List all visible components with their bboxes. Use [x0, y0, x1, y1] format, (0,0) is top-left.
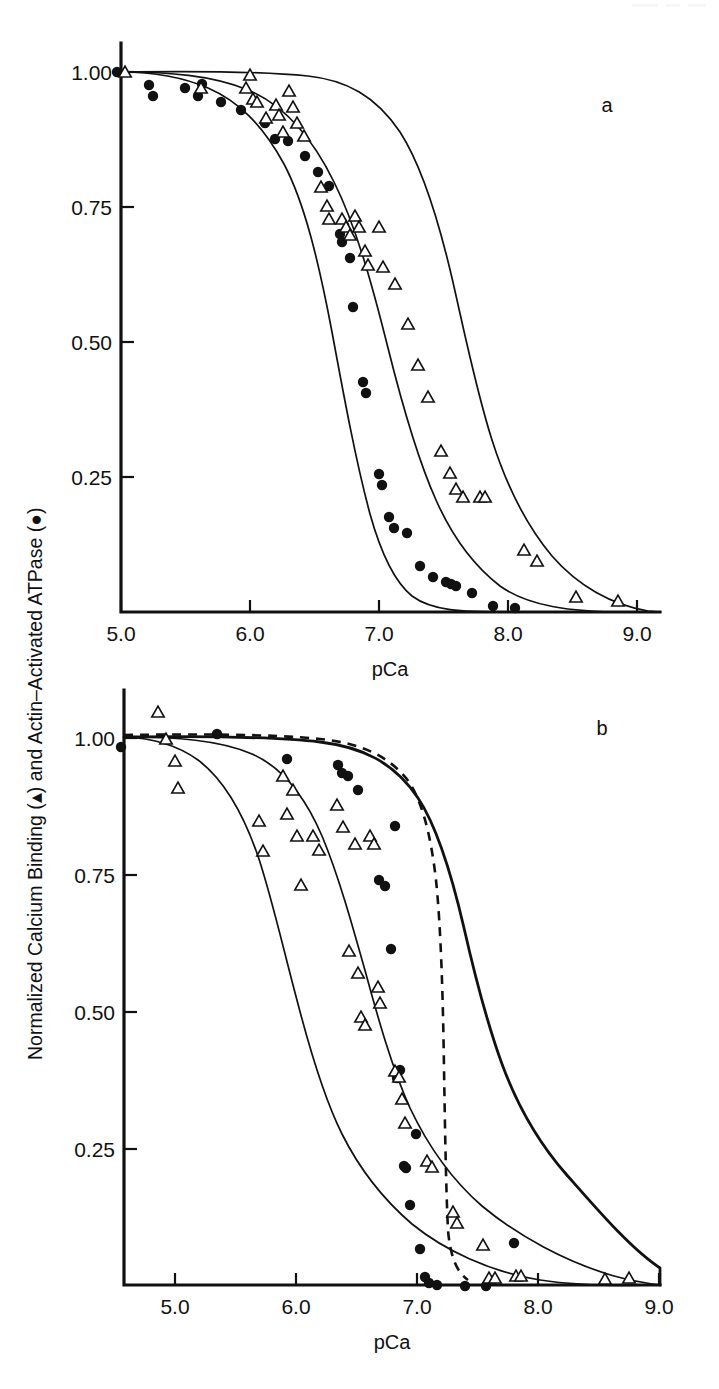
- scientific-figure: Normalized Calcium Binding (▴) and Actin…: [0, 0, 719, 1389]
- y-axis-label: Normalized Calcium Binding (▴) and Actin…: [24, 508, 46, 1060]
- panel-a-ytick-2: 0.75: [71, 196, 112, 219]
- panel-b-ytick-3: 0.50: [74, 1001, 115, 1024]
- panel-a-xtick-5: 9.0: [622, 622, 651, 645]
- figure-root: Normalized Calcium Binding (▴) and Actin…: [0, 0, 719, 1389]
- panel-a-ytick-4: 0.25: [71, 466, 112, 489]
- panel-a-xtick-1: 5.0: [106, 622, 135, 645]
- panel-a-xtick-4: 8.0: [493, 622, 522, 645]
- panel-b-ytick-4: 0.25: [74, 1138, 115, 1161]
- panel-a-ytick-3: 0.50: [71, 331, 112, 354]
- panel-a-x-axis-title: pCa: [372, 658, 410, 680]
- panel-b-xtick-3: 7.0: [402, 1295, 431, 1318]
- panel-a-xtick-3: 7.0: [364, 622, 393, 645]
- panel-b-xtick-4: 8.0: [523, 1295, 552, 1318]
- panel-a-xtick-2: 6.0: [235, 622, 264, 645]
- scan-artifacts: [632, 4, 706, 7]
- panel-b-xtick-1: 5.0: [160, 1295, 189, 1318]
- panel-b-ytick-1: 1.00: [74, 727, 115, 750]
- panel-b-letter: b: [596, 717, 607, 739]
- y-axis-label-group: Normalized Calcium Binding (▴) and Actin…: [24, 508, 46, 1060]
- panel-b-ytick-2: 0.75: [74, 864, 115, 887]
- panel-b-x-axis-title: pCa: [374, 1331, 412, 1353]
- panel-a-letter: a: [601, 94, 613, 116]
- panel-a-ytick-1: 1.00: [71, 61, 112, 84]
- panel-b-xtick-2: 6.0: [281, 1295, 310, 1318]
- panel-b-xtick-5: 9.0: [644, 1295, 673, 1318]
